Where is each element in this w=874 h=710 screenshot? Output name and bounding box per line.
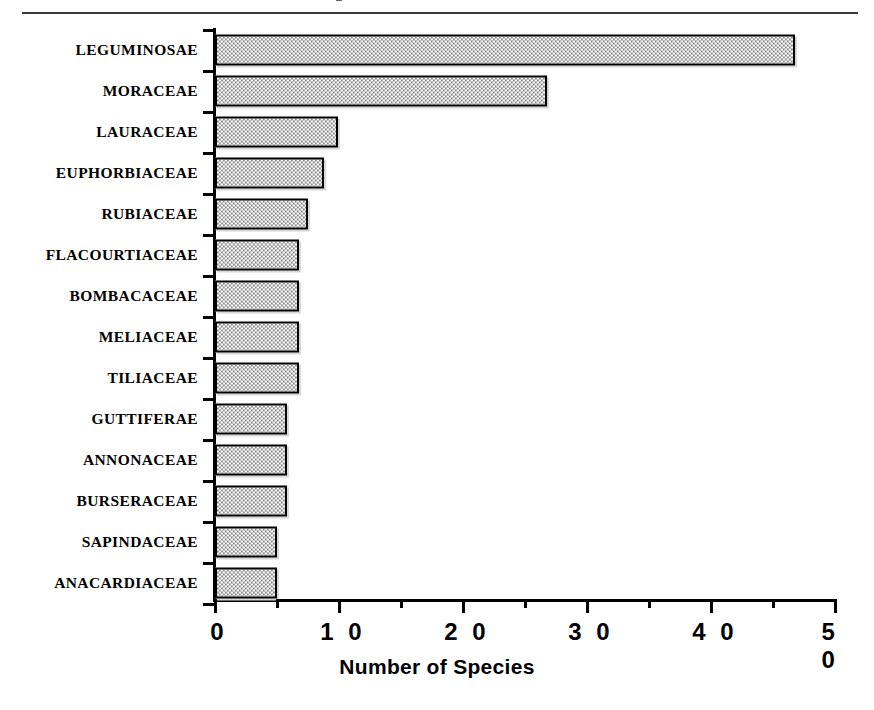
- bar: [215, 239, 299, 270]
- bar: [215, 280, 299, 311]
- bar-row: SAPINDACEAE: [0, 521, 874, 562]
- bar-fill: [215, 198, 308, 229]
- y-axis-tick: [203, 275, 216, 278]
- bar-fill: [215, 403, 287, 434]
- y-axis-tick: [203, 152, 216, 155]
- x-axis-tick: [710, 599, 713, 613]
- figure-container: LEGUMINOSAEMORACEAELAURACEAEEUPHORBIACEA…: [0, 0, 874, 710]
- y-axis-tick: [203, 234, 216, 237]
- x-axis-tick: [586, 599, 589, 613]
- x-axis-tick-label: 4 0: [692, 618, 737, 646]
- bar: [215, 116, 338, 147]
- bar-fill: [215, 526, 277, 557]
- bar-fill: [215, 116, 338, 147]
- x-axis-title: Number of Species: [0, 655, 874, 679]
- bar-row: EUPHORBIACEAE: [0, 152, 874, 193]
- category-label: MELIACEAE: [99, 328, 198, 346]
- x-axis-tick: [338, 599, 341, 613]
- bar-fill: [215, 157, 324, 188]
- y-axis-tick: [203, 29, 216, 32]
- category-label: ANACARDIACEAE: [54, 574, 198, 592]
- bar-row: MORACEAE: [0, 70, 874, 111]
- bar-row: MELIACEAE: [0, 316, 874, 357]
- y-axis-tick: [203, 111, 216, 114]
- x-axis-tick-label: 0: [210, 618, 227, 646]
- bar-fill: [215, 444, 287, 475]
- bar-fill: [215, 362, 299, 393]
- x-axis-tick-label: 3 0: [568, 618, 613, 646]
- bar-row: GUTTIFERAE: [0, 398, 874, 439]
- x-axis-minor-tick: [648, 599, 651, 608]
- bar-fill: [215, 321, 299, 352]
- category-label: MORACEAE: [103, 82, 198, 100]
- category-label: RUBIACEAE: [101, 205, 198, 223]
- bar-row: ANACARDIACEAE: [0, 562, 874, 603]
- x-axis-minor-tick: [524, 599, 527, 608]
- y-axis-tick: [203, 521, 216, 524]
- bar-fill: [215, 280, 299, 311]
- x-axis-minor-tick: [276, 599, 279, 608]
- bar: [215, 198, 308, 229]
- bar: [215, 444, 287, 475]
- bar-row: LAURACEAE: [0, 111, 874, 152]
- bar: [215, 157, 324, 188]
- bar-fill: [215, 34, 795, 65]
- bar-row: BURSERACEAE: [0, 480, 874, 521]
- y-axis-tick: [203, 357, 216, 360]
- category-label: LAURACEAE: [96, 123, 198, 141]
- bar-fill: [215, 567, 277, 598]
- y-axis-tick: [203, 562, 216, 565]
- bar-fill: [215, 485, 287, 516]
- cropped-caption-fragment-icon: [336, 0, 342, 1]
- bar: [215, 485, 287, 516]
- y-axis-tick: [203, 193, 216, 196]
- y-axis-tick: [203, 316, 216, 319]
- x-axis-tick-label: 1 0: [320, 618, 365, 646]
- bar: [215, 362, 299, 393]
- bar: [215, 75, 547, 106]
- y-axis-tick: [203, 439, 216, 442]
- bar: [215, 567, 277, 598]
- bar: [215, 403, 287, 434]
- category-label: SAPINDACEAE: [82, 533, 198, 551]
- category-label: LEGUMINOSAE: [76, 41, 198, 59]
- x-axis-tick: [462, 599, 465, 613]
- bar-row: LEGUMINOSAE: [0, 29, 874, 70]
- y-axis-tick: [203, 398, 216, 401]
- x-axis-tick: [834, 599, 837, 613]
- bar-fill: [215, 75, 547, 106]
- bar-row: FLACOURTIACEAE: [0, 234, 874, 275]
- category-label: ANNONACEAE: [83, 451, 198, 469]
- bar-row: RUBIACEAE: [0, 193, 874, 234]
- x-axis-tick: [214, 599, 217, 613]
- category-label: FLACOURTIACEAE: [46, 246, 198, 264]
- category-label: GUTTIFERAE: [92, 410, 199, 428]
- x-axis-tick-label: 2 0: [444, 618, 489, 646]
- bar-fill: [215, 239, 299, 270]
- top-horizontal-rule: [22, 12, 858, 14]
- bar-row: TILIACEAE: [0, 357, 874, 398]
- category-label: BURSERACEAE: [76, 492, 198, 510]
- bar-chart-plot-area: LEGUMINOSAEMORACEAELAURACEAEEUPHORBIACEA…: [0, 28, 874, 608]
- y-axis-tick: [203, 480, 216, 483]
- y-axis-tick: [203, 70, 216, 73]
- category-label: BOMBACACEAE: [70, 287, 198, 305]
- category-label: EUPHORBIACEAE: [56, 164, 198, 182]
- x-axis-minor-tick: [772, 599, 775, 608]
- bar: [215, 34, 795, 65]
- x-axis-minor-tick: [400, 599, 403, 608]
- bar-row: ANNONACEAE: [0, 439, 874, 480]
- bar: [215, 526, 277, 557]
- category-label: TILIACEAE: [107, 369, 198, 387]
- bar-row: BOMBACACEAE: [0, 275, 874, 316]
- bar: [215, 321, 299, 352]
